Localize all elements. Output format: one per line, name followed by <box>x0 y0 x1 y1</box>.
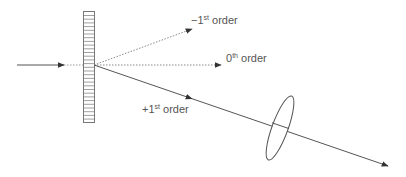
plus-first-order-label: +1st order <box>142 103 189 115</box>
plus-first-order-beam <box>94 65 388 166</box>
minus-first-order-label: −1st order <box>191 14 238 26</box>
lens <box>261 93 299 162</box>
diagram-canvas: −1st order 0th order +1st order <box>0 0 406 177</box>
diffraction-diagram: −1st order 0th order +1st order <box>0 0 406 177</box>
minus-first-order-beam <box>94 29 192 65</box>
diffraction-grating <box>84 12 95 123</box>
zeroth-order-label: 0th order <box>226 52 267 64</box>
